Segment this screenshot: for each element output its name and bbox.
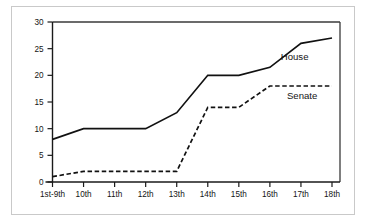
x-axis-tick-labels: 1st-9th10th11th12th13th14th15th16th17th1… bbox=[40, 190, 340, 199]
y-tick-label: 20 bbox=[34, 71, 44, 80]
x-tick-label: 1st-9th bbox=[40, 190, 65, 199]
series-label-house: House bbox=[281, 51, 309, 62]
x-axis-ticks bbox=[53, 182, 333, 187]
x-tick-label: 17th bbox=[293, 190, 309, 199]
x-tick-label: 10th bbox=[76, 190, 92, 199]
x-tick-label: 13th bbox=[169, 190, 185, 199]
series-labels-group: House Senate bbox=[281, 51, 318, 101]
y-tick-label: 5 bbox=[39, 151, 44, 160]
x-tick-label: 18th bbox=[324, 190, 340, 199]
x-tick-label: 16th bbox=[262, 190, 278, 199]
plot-frame bbox=[46, 22, 341, 182]
y-tick-label: 25 bbox=[34, 45, 44, 54]
x-tick-label: 11th bbox=[107, 190, 123, 199]
y-tick-label: 0 bbox=[39, 178, 44, 187]
y-tick-label: 30 bbox=[34, 18, 44, 27]
y-axis-ticks bbox=[48, 22, 53, 182]
chart-figure: 051015202530 1st-9th10th11th12th13th14th… bbox=[0, 0, 367, 224]
series-label-senate: Senate bbox=[287, 90, 317, 101]
y-tick-label: 15 bbox=[34, 98, 44, 107]
y-tick-label: 10 bbox=[34, 125, 44, 134]
y-axis-tick-labels: 051015202530 bbox=[34, 18, 44, 187]
x-tick-label: 14th bbox=[200, 190, 216, 199]
x-tick-label: 12th bbox=[138, 190, 154, 199]
x-tick-label: 15th bbox=[231, 190, 247, 199]
line-chart: 051015202530 1st-9th10th11th12th13th14th… bbox=[0, 0, 367, 224]
